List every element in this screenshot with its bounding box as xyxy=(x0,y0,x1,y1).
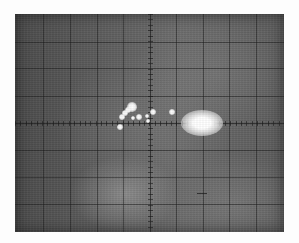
axis-minor-tick xyxy=(148,41,153,42)
axis-minor-tick xyxy=(225,121,226,126)
axis-minor-tick xyxy=(148,96,153,97)
axis-minor-tick xyxy=(230,121,231,126)
axis-minor-tick xyxy=(148,227,153,228)
bright-beam-spot xyxy=(181,110,223,136)
axis-minor-tick xyxy=(112,121,113,126)
axis-minor-tick xyxy=(148,183,153,184)
axis-minor-tick xyxy=(148,221,153,222)
axis-minor-tick xyxy=(53,121,54,126)
axis-minor-tick xyxy=(148,69,153,70)
axis-minor-tick xyxy=(148,47,153,48)
axis-minor-tick xyxy=(148,74,153,75)
axis-minor-tick xyxy=(148,139,153,140)
axis-minor-tick xyxy=(279,121,280,126)
trace-dot xyxy=(119,114,125,120)
trace-dot xyxy=(131,116,136,121)
axis-minor-tick xyxy=(148,177,153,178)
axis-minor-tick xyxy=(148,161,153,162)
axis-minor-tick xyxy=(148,145,153,146)
axis-minor-tick xyxy=(85,121,86,126)
axis-minor-tick xyxy=(148,25,153,26)
axis-minor-tick xyxy=(133,121,134,126)
crt-screen xyxy=(15,14,284,232)
axis-minor-tick xyxy=(148,52,153,53)
axis-minor-tick xyxy=(106,121,107,126)
axis-minor-tick xyxy=(148,210,153,211)
axis-minor-tick xyxy=(155,121,156,126)
axis-minor-tick xyxy=(47,121,48,126)
axis-minor-tick xyxy=(80,121,81,126)
axis-minor-tick xyxy=(15,121,16,126)
axis-minor-tick xyxy=(58,121,59,126)
axis-minor-tick xyxy=(148,14,153,15)
axis-minor-tick xyxy=(139,121,140,126)
axis-minor-tick xyxy=(148,216,153,217)
axis-minor-tick xyxy=(63,121,64,126)
trace-dot xyxy=(150,109,156,115)
axis-minor-tick xyxy=(69,121,70,126)
axis-minor-tick xyxy=(37,121,38,126)
axis-minor-tick xyxy=(148,167,153,168)
axis-minor-tick xyxy=(148,90,153,91)
axis-minor-tick xyxy=(236,121,237,126)
axis-minor-tick xyxy=(257,121,258,126)
axis-minor-tick xyxy=(262,121,263,126)
axis-minor-tick xyxy=(148,63,153,64)
axis-minor-tick xyxy=(26,121,27,126)
axis-minor-tick xyxy=(96,121,97,126)
axis-minor-tick xyxy=(128,121,129,126)
axis-minor-tick xyxy=(148,188,153,189)
axis-minor-tick xyxy=(123,121,124,126)
axis-minor-tick xyxy=(148,79,153,80)
axis-minor-tick xyxy=(160,121,161,126)
dark-dash-mark xyxy=(197,193,207,194)
axis-minor-tick xyxy=(148,199,153,200)
axis-minor-tick xyxy=(273,121,274,126)
axis-minor-tick xyxy=(246,121,247,126)
axis-minor-tick xyxy=(148,85,153,86)
axis-minor-tick xyxy=(148,101,153,102)
axis-minor-tick xyxy=(268,121,269,126)
grid-line-horizontal xyxy=(15,42,284,43)
axis-minor-tick xyxy=(148,128,153,129)
axis-minor-tick xyxy=(148,205,153,206)
oscilloscope-photo xyxy=(0,0,299,243)
axis-minor-tick xyxy=(166,121,167,126)
trace-dot xyxy=(136,114,142,120)
axis-minor-tick xyxy=(148,156,153,157)
axis-minor-tick xyxy=(148,172,153,173)
axis-minor-tick xyxy=(42,121,43,126)
axis-minor-tick xyxy=(148,30,153,31)
axis-minor-tick xyxy=(148,134,153,135)
axis-minor-tick xyxy=(252,121,253,126)
axis-minor-tick xyxy=(148,194,153,195)
trace-dot xyxy=(169,109,175,115)
axis-minor-tick xyxy=(148,19,153,20)
axis-minor-tick xyxy=(90,121,91,126)
axis-minor-tick xyxy=(148,150,153,151)
axis-minor-tick xyxy=(20,121,21,126)
axis-minor-tick xyxy=(148,58,153,59)
axis-minor-tick xyxy=(176,121,177,126)
axis-minor-tick xyxy=(148,107,153,108)
axis-minor-tick xyxy=(144,121,145,126)
axis-minor-tick xyxy=(101,121,102,126)
axis-minor-tick xyxy=(148,36,153,37)
axis-minor-tick xyxy=(241,121,242,126)
axis-minor-tick xyxy=(171,121,172,126)
axis-minor-tick xyxy=(74,121,75,126)
axis-minor-tick xyxy=(31,121,32,126)
